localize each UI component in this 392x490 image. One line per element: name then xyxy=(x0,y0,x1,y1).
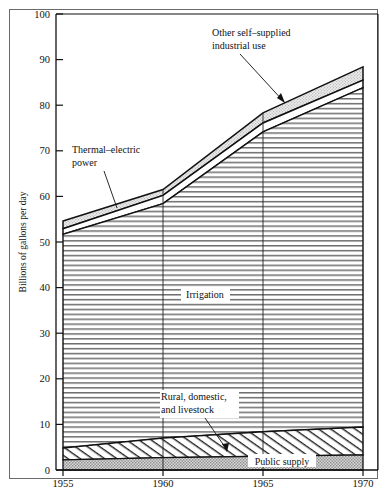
ytick-label-80: 80 xyxy=(40,100,51,111)
annotation-public-supply: Public supply xyxy=(248,454,316,467)
annotation-thermal-electric-power: Thermal–electric power xyxy=(72,144,141,208)
ytick-label-100: 100 xyxy=(34,9,50,20)
annotation-industrial-leader xyxy=(240,54,285,103)
ytick-label-40: 40 xyxy=(40,282,51,293)
ytick-label-30: 30 xyxy=(40,328,51,339)
annotation-thermal-electric-power-line2: power xyxy=(72,157,98,168)
xtick-label-1960: 1960 xyxy=(153,478,174,489)
annotation-industrial-line1: Other self–supplied xyxy=(212,27,291,38)
y-axis-title: Billions of gallons per day xyxy=(18,191,28,292)
ytick-label-50: 50 xyxy=(40,237,51,248)
annotation-rural-line2: and livestock xyxy=(161,404,214,415)
ytick-label-60: 60 xyxy=(40,191,51,202)
annotation-industrial-line2: industrial use xyxy=(212,40,266,51)
xtick-label-1955: 1955 xyxy=(53,478,74,489)
annotation-public-supply-label: Public supply xyxy=(255,456,310,467)
annotation-thermal-leader xyxy=(104,171,117,208)
annotation-thermal-electric-power-line1: Thermal–electric xyxy=(72,144,141,155)
ytick-label-0: 0 xyxy=(45,465,50,476)
x-axis-ticks xyxy=(63,470,363,476)
ytick-label-20: 20 xyxy=(40,373,51,384)
annotation-rural-line1: Rural, domestic, xyxy=(161,391,227,402)
y-axis-ticks xyxy=(56,14,63,470)
ytick-label-10: 10 xyxy=(40,419,51,430)
xtick-label-1970: 1970 xyxy=(353,478,374,489)
annotation-irrigation: Irrigation xyxy=(181,287,230,301)
xtick-label-1965: 1965 xyxy=(253,478,274,489)
ytick-label-70: 70 xyxy=(40,145,51,156)
annotation-irrigation-label: Irrigation xyxy=(186,289,224,300)
annotation-industrial-arrowhead xyxy=(277,93,285,103)
ytick-label-90: 90 xyxy=(40,54,51,65)
chart-root: 0 10 20 30 40 50 60 70 80 90 100 1955 19… xyxy=(0,0,392,490)
annotation-other-self-supplied-industrial-use: Other self–supplied industrial use xyxy=(212,27,291,103)
chart-canvas: 0 10 20 30 40 50 60 70 80 90 100 1955 19… xyxy=(0,0,392,490)
